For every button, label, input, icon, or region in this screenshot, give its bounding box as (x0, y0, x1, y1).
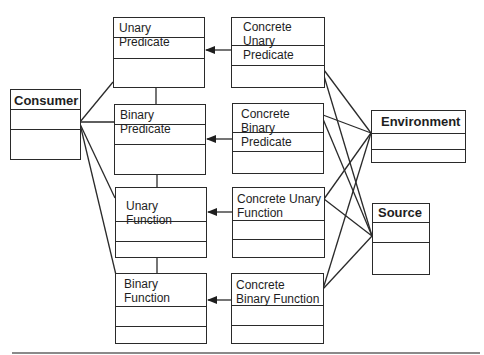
class-unary-function[interactable]: Unary Function (115, 187, 207, 258)
class-concrete-unary-predicate-attributes (232, 46, 324, 66)
class-concrete-binary-predicate-title: Concrete Binary Predicate (233, 104, 323, 133)
class-environment-attributes (372, 134, 465, 150)
class-environment[interactable]: Environment (371, 110, 466, 163)
cbf-to-environment-line (323, 133, 371, 289)
class-binary-predicate-title: Binary Predicate (115, 105, 205, 125)
cbp-to-source-line (323, 119, 372, 236)
class-source-attributes (373, 223, 429, 243)
class-concrete-unary-predicate-title: Concrete Unary Predicate (232, 18, 324, 46)
class-unary-predicate-attributes (114, 38, 204, 59)
consumer-to-unary-function-line (80, 124, 115, 198)
class-concrete-unary-predicate[interactable]: Concrete Unary Predicate (231, 17, 325, 88)
class-concrete-binary-function[interactable]: Concrete Binary Function (231, 273, 324, 344)
class-binary-function[interactable]: Binary Function (115, 273, 207, 344)
class-binary-function-attributes (116, 307, 206, 327)
class-concrete-binary-predicate[interactable]: Concrete Binary Predicate (232, 103, 324, 174)
class-concrete-unary-function-attributes (233, 221, 324, 240)
cup-to-source-line (324, 76, 372, 236)
class-unary-function-attributes (116, 222, 206, 242)
class-concrete-unary-function-title: Concrete Unary Function (233, 188, 324, 221)
class-consumer-title: Consumer (11, 90, 80, 110)
class-concrete-binary-function-title: Concrete Binary Function (232, 274, 323, 306)
class-source[interactable]: Source (372, 203, 430, 275)
bottom-rule (12, 352, 480, 354)
class-unary-function-title: Unary Function (116, 188, 206, 222)
cuf-to-environment-line (324, 133, 371, 199)
class-source-title: Source (373, 204, 429, 223)
class-concrete-binary-predicate-attributes (233, 133, 323, 152)
consumer-to-binary-function-line (80, 124, 116, 275)
cbf-to-source-line (323, 236, 372, 289)
class-consumer-attributes (11, 110, 80, 130)
class-unary-predicate[interactable]: Unary Predicate (113, 17, 205, 88)
class-concrete-binary-function-attributes (232, 306, 323, 326)
consumer-to-unary-predicate-line (80, 82, 113, 122)
class-environment-title: Environment (372, 111, 465, 134)
class-unary-predicate-title: Unary Predicate (114, 18, 204, 38)
class-concrete-unary-function[interactable]: Concrete Unary Function (232, 187, 325, 258)
class-binary-predicate-attributes (115, 125, 205, 145)
class-diagram: Consumer Unary Predicate Binary Predicat… (0, 0, 484, 355)
class-binary-function-title: Binary Function (116, 274, 206, 307)
class-consumer[interactable]: Consumer (10, 89, 81, 160)
class-binary-predicate[interactable]: Binary Predicate (114, 104, 206, 175)
